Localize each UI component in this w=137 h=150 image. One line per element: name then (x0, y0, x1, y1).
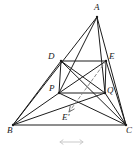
vertex-label-A: A (94, 3, 100, 12)
vertex-dot-D (60, 60, 62, 62)
segment-BP (13, 93, 59, 125)
vertex-label-C: C (126, 126, 132, 135)
vertex-label-D: D (48, 52, 55, 61)
vertex-dot-P (58, 92, 60, 94)
vertex-dot-Q (104, 92, 106, 94)
vertex-dot-A (96, 16, 98, 18)
segment-BQ (13, 93, 105, 125)
segment-BD (13, 61, 61, 125)
geometry-canvas (0, 0, 137, 150)
vertex-label-Q: Q (107, 86, 114, 95)
arrowhead-icon (69, 106, 74, 112)
vertex-dot-E (105, 60, 107, 62)
segment-EQ (105, 61, 106, 93)
segment-AC (97, 17, 126, 125)
vertex-label-P: P (49, 84, 55, 93)
geometry-figure: A B C D E P Q E' (0, 0, 137, 150)
vertex-label-E: E (109, 52, 115, 61)
bottom-mark-layer (60, 140, 83, 144)
vertex-label-E-prime: E' (62, 113, 69, 122)
segment-AQ (97, 17, 105, 93)
vertex-label-B: B (7, 126, 13, 135)
